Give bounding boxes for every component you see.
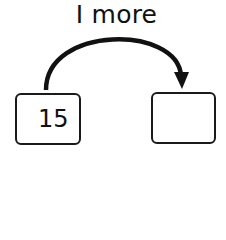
start-number-box: 15 (15, 93, 81, 145)
start-number: 15 (38, 105, 69, 133)
answer-box[interactable] (151, 92, 216, 144)
